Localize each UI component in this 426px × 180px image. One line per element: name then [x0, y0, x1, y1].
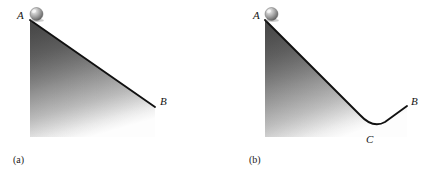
incline-edge-shade-a: [30, 20, 155, 137]
ball-a: [30, 8, 44, 23]
figure-illustration: [0, 0, 426, 180]
panel-a-graphic: [30, 8, 155, 138]
label-point-c-panel-b: C: [366, 134, 373, 145]
caption-panel-a: (a): [13, 155, 24, 165]
figure-container: A B (a) A B C (b): [0, 0, 426, 180]
label-point-a-panel-a: A: [17, 10, 24, 21]
label-point-a-panel-b: A: [253, 10, 260, 21]
label-point-b-panel-a: B: [160, 96, 167, 107]
label-point-b-panel-b: B: [411, 96, 418, 107]
caption-panel-b: (b): [249, 155, 261, 165]
ball-b: [265, 8, 279, 23]
panel-b-graphic: [265, 8, 407, 138]
incline-edge-shade-b: [265, 20, 407, 137]
